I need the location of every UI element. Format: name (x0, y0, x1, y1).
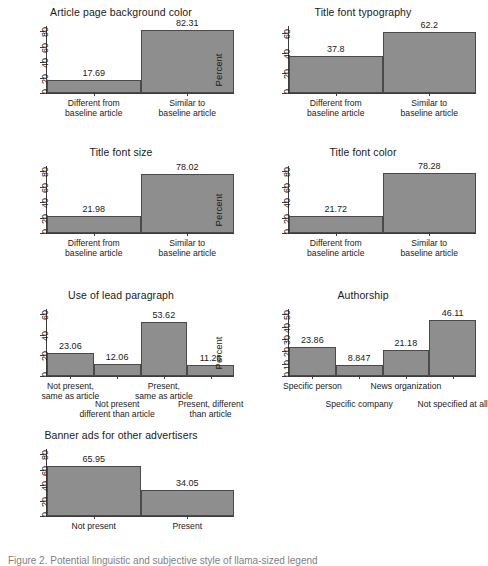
x-tick-label: Different frombaseline article (65, 98, 122, 118)
x-tick-mark (336, 92, 337, 96)
chart-title: Article page background color (0, 6, 242, 18)
x-tick-label-line: Specific person (283, 381, 342, 391)
chart-title: Use of lead paragraph (0, 289, 242, 301)
x-tick-label-line: Similar to (401, 98, 458, 108)
bar-group: 62.2 (383, 26, 477, 93)
bar-group: 34.05 (141, 449, 235, 516)
y-axis-label: Percent (213, 337, 224, 370)
x-tick-label: Different frombaseline article (307, 98, 364, 118)
x-tick-mark (211, 375, 212, 379)
bar (429, 320, 476, 376)
x-tick-label-line: Similar to (159, 238, 216, 248)
figure-caption: Figure 2. Potential linguistic and subje… (8, 555, 428, 566)
chart-panel: AuthorshipPercent0102030405023.868.84721… (242, 283, 484, 423)
x-tick-label-line: News organization (371, 381, 442, 391)
x-tick-label-line: Present, (135, 381, 193, 391)
y-axis-label: Percent (213, 194, 224, 227)
bar (289, 216, 383, 233)
x-tick-label: Not present (72, 521, 116, 531)
bar-value-label: 78.28 (418, 161, 441, 171)
x-tick-label-line: baseline article (401, 248, 458, 258)
x-tick-group: Different frombaseline articleSimilar to… (47, 236, 234, 276)
x-tick-mark (70, 375, 71, 379)
y-tick-group: 020406080 (258, 166, 286, 234)
y-axis-label: Percent (213, 54, 224, 87)
bar-value-label: 37.8 (327, 44, 345, 54)
plot-area: 020406037.862.2 (288, 26, 476, 94)
x-tick-label-line: baseline article (159, 248, 216, 258)
chart-panel: Use of lead paragraphPercent020406023.06… (0, 283, 242, 423)
x-tick-mark (187, 232, 188, 236)
bar-value-label: 23.06 (59, 341, 82, 351)
x-tick-mark (453, 375, 454, 379)
chart-panel: Article page background colorPercent0204… (0, 0, 242, 140)
bar-group: 8.847 (336, 309, 383, 376)
bar-group: 21.18 (383, 309, 430, 376)
x-tick-group: Different frombaseline articleSimilar to… (289, 96, 476, 136)
x-tick-label: Different frombaseline article (307, 238, 364, 258)
x-tick-label-line: Not present (72, 521, 116, 531)
x-tick-label-line: Different from (307, 238, 364, 248)
x-tick-label-line: Different from (65, 238, 122, 248)
x-tick-label-line: Specific company (325, 399, 392, 409)
x-tick-mark (164, 375, 165, 379)
bar (47, 466, 141, 516)
x-tick-group: Different frombaseline articleSimilar to… (47, 96, 234, 136)
x-tick-label-line: baseline article (159, 108, 216, 118)
bar-group: 21.98 (47, 166, 141, 233)
y-tick-group: 0204060 (16, 309, 44, 377)
bar-value-label: 21.18 (395, 338, 418, 348)
bar-series: 21.9878.02 (47, 166, 234, 233)
bar-value-label: 12.06 (106, 352, 129, 362)
bar-value-label: 23.86 (301, 335, 324, 345)
bar-group: 21.72 (289, 166, 383, 233)
x-tick-group: Not present,same as articleNot presentdi… (47, 379, 234, 419)
bar-value-label: 17.69 (82, 68, 105, 78)
chart-panel: Title font typographyPercent020406037.86… (242, 0, 484, 140)
y-tick-group: 020406080 (16, 166, 44, 234)
bar (289, 56, 383, 93)
bar-series: 17.6982.31 (47, 26, 234, 93)
x-tick-group: Different frombaseline articleSimilar to… (289, 236, 476, 276)
x-tick-label-line: Similar to (401, 238, 458, 248)
bar (383, 350, 430, 376)
x-tick-mark (406, 375, 407, 379)
x-tick-label: Similar tobaseline article (159, 98, 216, 118)
bar (383, 32, 477, 93)
x-tick-label-line: Not specified at all (418, 399, 488, 409)
x-tick-mark (94, 515, 95, 519)
bar-group: 37.8 (289, 26, 383, 93)
plot-area: 02040608017.6982.31 (46, 26, 234, 94)
x-tick-label: Not specified at all (418, 399, 488, 409)
x-tick-label-line: baseline article (307, 248, 364, 258)
bar-group: 65.95 (47, 449, 141, 516)
bar (289, 347, 336, 376)
x-axis (288, 93, 476, 94)
y-tick-group: 020406080 (16, 449, 44, 517)
bar-value-label: 82.31 (176, 18, 199, 28)
x-tick-label-line: different than article (79, 409, 154, 419)
x-tick-label-line: than article (178, 409, 243, 419)
bar (141, 490, 235, 516)
bar-value-label: 21.72 (324, 204, 347, 214)
bar-series: 23.0612.0653.6211.26 (47, 309, 234, 376)
x-tick-mark (94, 92, 95, 96)
x-tick-label-line: Different from (307, 98, 364, 108)
x-tick-mark (187, 515, 188, 519)
bar-group: 53.62 (141, 309, 188, 376)
x-tick-mark (429, 232, 430, 236)
bar-value-label: 21.98 (82, 204, 105, 214)
x-axis (288, 376, 476, 377)
x-tick-label: Similar tobaseline article (401, 98, 458, 118)
x-tick-label: Specific person (283, 381, 342, 391)
chart-title: Title font color (242, 146, 484, 158)
bar-series: 23.868.84721.1846.11 (289, 309, 476, 376)
bar-group: 23.06 (47, 309, 94, 376)
x-tick-label: Present,same as article (135, 381, 193, 401)
x-tick-label-line: baseline article (65, 108, 122, 118)
bar-value-label: 65.95 (82, 454, 105, 464)
plot-area: 020406023.0612.0653.6211.26 (46, 309, 234, 377)
x-tick-mark (94, 232, 95, 236)
x-tick-label: Specific company (325, 399, 392, 409)
chart-panel: Title font sizePercent02040608021.9878.0… (0, 140, 242, 280)
